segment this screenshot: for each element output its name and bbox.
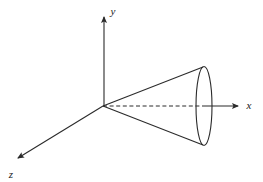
x-axis-label: x — [246, 99, 252, 111]
cone-lower-edge — [103, 106, 203, 145]
cone-3d-coordinate-diagram: x y z — [0, 0, 263, 182]
z-axis-label: z — [8, 168, 14, 180]
z-axis-line — [18, 106, 103, 158]
y-axis-label: y — [110, 5, 116, 17]
diagram-canvas: x y z — [0, 0, 263, 182]
cone-upper-edge — [103, 67, 203, 106]
